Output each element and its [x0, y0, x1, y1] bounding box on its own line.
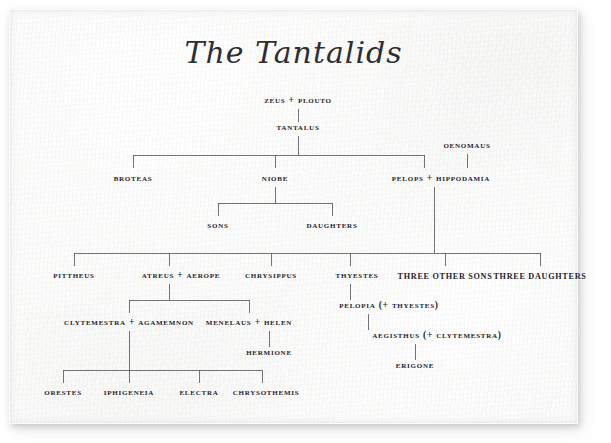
node-menelaus-helen: Menelaus + Helen [206, 317, 292, 328]
edge-atreus-drop [169, 284, 170, 300]
edge-drop-electra [199, 370, 200, 383]
edge-drop-pelops [424, 155, 425, 168]
edge-thyestes-to-pelopia [350, 284, 351, 300]
node-pelopia: Pelopia (+ Thyestes) [339, 300, 439, 311]
node-atreus-aerope: Atreus + Aerope [142, 270, 220, 281]
node-thyestes: Thyestes [336, 270, 379, 281]
edge-drop-thyestes [350, 253, 351, 266]
tree-canvas: The Tantalids Zeus + Plouto Tantalus Bro… [9, 9, 578, 424]
node-aegisthus: Aegisthus (+ Clytemestra) [372, 330, 502, 341]
edge-atreus-children-bar [129, 300, 249, 301]
edge-tantalus-drop [298, 136, 299, 155]
node-three-other-sons: three other sons [398, 271, 493, 282]
node-chrysothemis: Chrysothemis [233, 387, 300, 398]
edge-drop-clytemestra [129, 300, 130, 313]
family-tree-screenshot: The Tantalids Zeus + Plouto Tantalus Bro… [0, 0, 611, 443]
edge-drop-broteas [133, 155, 134, 168]
node-sons: Sons [207, 220, 228, 231]
edge-aegisthus-to-erigone [415, 344, 416, 360]
edge-menelaus-to-hermione [269, 331, 270, 347]
edge-drop-orestes [63, 370, 64, 383]
node-hermione: Hermione [246, 347, 292, 358]
node-daughters: Daughters [306, 220, 357, 231]
node-pittheus: Pittheus [53, 270, 94, 281]
node-tantalus: Tantalus [276, 122, 319, 133]
edge-pelops-drop [434, 187, 435, 253]
node-erigone: Erigone [396, 360, 434, 371]
node-orestes: Orestes [44, 387, 82, 398]
edge-drop-niobe [275, 155, 276, 168]
edge-drop-daughters [332, 203, 333, 216]
node-clytemestra-agamemnon: Clytemestra + Agamemnon [64, 317, 194, 328]
edge-drop-iphigeneia [129, 370, 130, 383]
edge-niobe-children-bar [218, 203, 332, 204]
edge-clytemestra-children-bar [63, 370, 262, 371]
node-zeus-plouto: Zeus + Plouto [264, 95, 332, 106]
edge-clytemestra-drop [129, 331, 130, 370]
paper-sheet: The Tantalids Zeus + Plouto Tantalus Bro… [9, 9, 578, 424]
page-title: The Tantalids [9, 35, 578, 70]
node-pelops-hippodamia: Pelops + Hippodamia [392, 173, 490, 184]
edge-drop-three-daughters [540, 253, 541, 266]
edge-drop-chrysippus [271, 253, 272, 266]
edge-pelopia-to-aegisthus [368, 314, 369, 330]
node-iphigeneia: Iphigeneia [104, 387, 154, 398]
edge-zeus-to-tantalus [298, 109, 299, 122]
edge-drop-sons [218, 203, 219, 216]
node-chrysippus: Chrysippus [245, 270, 297, 281]
node-oenomaus: Oenomaus [443, 140, 490, 151]
edge-drop-menelaus [249, 300, 250, 313]
edge-drop-atreus [169, 253, 170, 266]
node-electra: Electra [179, 387, 218, 398]
node-three-daughters: three daughters [493, 271, 586, 282]
node-niobe: Niobe [262, 173, 288, 184]
edge-tantalus-children-bar [133, 155, 425, 156]
edge-drop-pittheus [74, 253, 75, 266]
edge-niobe-drop [275, 187, 276, 203]
edge-pelops-children-bar [74, 253, 541, 254]
edge-drop-three-other-sons [445, 253, 446, 266]
edge-drop-chrysothemis [262, 370, 263, 383]
edge-oenomaus-to-hippodamia [467, 154, 468, 168]
node-broteas: Broteas [114, 173, 153, 184]
